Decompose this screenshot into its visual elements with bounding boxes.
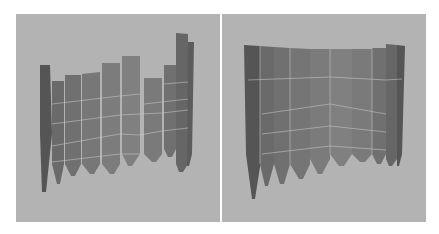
right-petal-strips [222,14,426,222]
right-render-panel [222,14,426,222]
left-render-panel [16,14,220,222]
left-petal-strips [16,14,220,222]
